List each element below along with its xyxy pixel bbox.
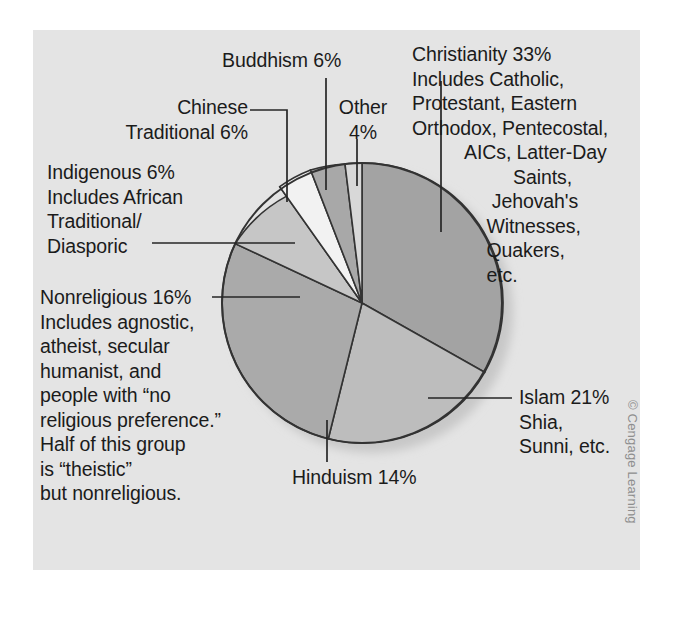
label-chinese-traditional: Chinese Traditional 6%: [40, 95, 248, 144]
label-indigenous: Indigenous 6% Includes African Tradition…: [47, 160, 257, 258]
label-other: Other 4%: [327, 95, 399, 144]
label-christianity: Christianity 33% Includes Catholic, Prot…: [412, 42, 612, 287]
copyright-credit: © Cengage Learning: [625, 400, 640, 580]
label-islam: Islam 21% Shia, Sunni, etc.: [519, 385, 679, 459]
label-buddhism: Buddhism 6%: [222, 48, 372, 73]
figure-root: Christianity 33% Includes Catholic, Prot…: [0, 0, 688, 617]
label-nonreligious: Nonreligious 16% Includes agnostic, athe…: [40, 285, 255, 506]
label-hinduism: Hinduism 14%: [292, 465, 472, 490]
